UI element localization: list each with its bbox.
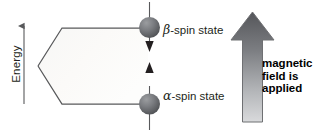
alpha-state-label-text: -spin state — [171, 90, 224, 102]
caption-line-2: field is — [262, 70, 313, 83]
alpha-state-label: α-spin state — [163, 88, 225, 103]
caption-line-3: applied — [262, 82, 313, 95]
spin-state-energy-diagram: Energy β-spin state α-spin state magneti… — [0, 0, 316, 137]
energy-splitting-wedge — [38, 28, 148, 104]
beta-state-label-text: -spin state — [170, 24, 223, 36]
magnetic-field-caption: magnetic field is applied — [262, 57, 313, 95]
alpha-sphere — [139, 94, 160, 115]
energy-axis-label: Energy — [10, 33, 22, 95]
beta-sphere — [139, 17, 160, 38]
beta-state-label: β-spin state — [163, 22, 223, 37]
caption-line-1: magnetic — [262, 57, 313, 70]
